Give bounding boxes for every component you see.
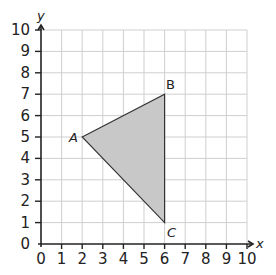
y-tick-label: 4 (20, 149, 30, 167)
y-tick-label: 2 (20, 192, 30, 210)
y-tick-label: 1 (20, 214, 30, 232)
y-tick-label: 7 (20, 85, 30, 103)
x-tick-label: 3 (98, 250, 108, 268)
x-tick-label: 1 (57, 250, 67, 268)
x-tick-label: 10 (237, 250, 256, 268)
x-tick-label: 9 (222, 250, 232, 268)
vertex-label-a: A (68, 130, 78, 145)
x-tick-label: 7 (180, 250, 190, 268)
y-tick-label: 6 (20, 107, 30, 125)
vertex-label-c: C (167, 225, 177, 240)
vertex-label-b: B (166, 77, 175, 92)
y-axis-name: y (36, 8, 45, 23)
y-tick-label: 3 (20, 171, 30, 189)
x-tick-label: 6 (160, 250, 170, 268)
x-tick-label: 0 (36, 250, 46, 268)
y-tick-labels: 0 1 2 3 4 5 6 7 8 9 10 (11, 21, 30, 253)
x-tick-label: 4 (119, 250, 129, 268)
y-tick-label: 8 (20, 64, 30, 82)
y-tick-label: 10 (11, 21, 30, 39)
x-tick-labels: 0 1 2 3 4 5 6 7 8 9 10 (36, 250, 256, 268)
x-tick-label: 5 (139, 250, 149, 268)
y-tick-label: 5 (20, 128, 30, 146)
x-axis-name: x (255, 236, 264, 251)
x-tick-label: 8 (201, 250, 211, 268)
x-tick-label: 2 (77, 250, 87, 268)
coordinate-grid: 0 1 2 3 4 5 6 7 8 9 10 0 1 2 3 4 5 6 7 8… (0, 0, 276, 275)
y-tick-label: 9 (20, 42, 30, 60)
y-tick-label: 0 (20, 235, 30, 253)
